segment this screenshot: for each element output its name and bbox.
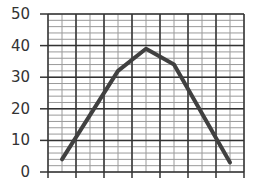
y-tick-label: 50	[11, 5, 30, 23]
y-tick-label: 40	[11, 37, 30, 55]
minor-grid	[48, 14, 244, 172]
y-axis-labels: 01020304050	[11, 5, 30, 181]
y-tick-label: 10	[11, 131, 30, 149]
line-chart: 01020304050	[0, 0, 257, 190]
y-tick-label: 0	[20, 163, 30, 181]
y-tick-label: 30	[11, 68, 30, 86]
y-tick-label: 20	[11, 100, 30, 118]
